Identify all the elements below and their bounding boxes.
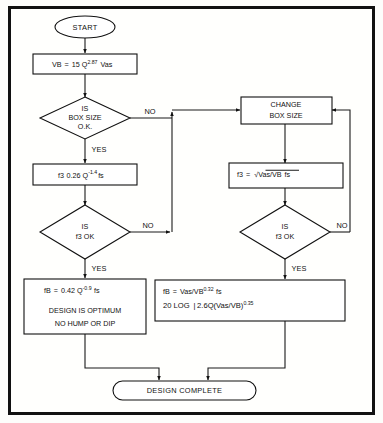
node-f3-decision-left[interactable]: IS f3 OK [40, 205, 130, 259]
flowchart-page: START VB=15 Q2.87Vas IS BOX SIZE O.K. NO… [0, 0, 383, 423]
change-line2: BOX SIZE [269, 111, 302, 120]
optimum-line2: DESIGN IS OPTIMUM [49, 306, 121, 315]
node-boxsize-decision[interactable]: IS BOX SIZE O.K. [40, 97, 130, 139]
node-f3-formula-right[interactable]: f3=√Vas/VBfs [229, 163, 343, 188]
node-f3-formula-left[interactable]: f30.26 Q-1.4fs [33, 164, 137, 185]
label-f3right-no: NO [336, 221, 347, 230]
edge-optimum-to-complete [85, 334, 159, 380]
node-vb-formula[interactable]: VB=15 Q2.87Vas [33, 54, 137, 74]
label-boxsize-no: NO [144, 107, 155, 116]
design-complete-label: DESIGN COMPLETE [147, 386, 223, 395]
node-f3-decision-right[interactable]: IS f3 OK [240, 205, 330, 259]
flowchart-canvas: START VB=15 Q2.87Vas IS BOX SIZE O.K. NO… [0, 0, 383, 423]
vb-formula-text: VB=15 Q2.87Vas [52, 59, 113, 69]
f3left-line1: IS [82, 222, 89, 231]
boxsize-line1: IS [82, 104, 89, 113]
f3left-line2: f3 OK [76, 232, 95, 241]
start-label: START [72, 23, 97, 32]
change-line1: CHANGE [271, 100, 302, 109]
node-optimum-box[interactable]: fB=0.42 Q-0.9fs DESIGN IS OPTIMUM NO HUM… [24, 279, 146, 334]
node-change-box-size[interactable]: CHANGE BOX SIZE [241, 97, 332, 124]
boxsize-line3: O.K. [78, 122, 92, 131]
label-f3left-yes: YES [92, 264, 107, 273]
result-line2: 20 LOG|2.6Q(Vas/VB)0.35 [163, 300, 254, 310]
node-start[interactable]: START [55, 16, 115, 38]
f3right-line1: IS [282, 222, 289, 231]
edge-result-to-complete [208, 321, 285, 380]
label-f3left-no: NO [142, 221, 153, 230]
label-boxsize-yes: YES [92, 145, 107, 154]
label-f3right-yes: YES [292, 264, 307, 273]
optimum-line3: NO HUMP OR DIP [55, 319, 116, 328]
node-design-complete[interactable]: DESIGN COMPLETE [113, 381, 256, 400]
boxsize-line2: BOX SIZE [68, 113, 101, 122]
f3right-line2: f3 OK [276, 232, 295, 241]
node-result-box[interactable]: fB=Vas/VB0.32fs 20 LOG|2.6Q(Vas/VB)0.35 [155, 280, 345, 321]
